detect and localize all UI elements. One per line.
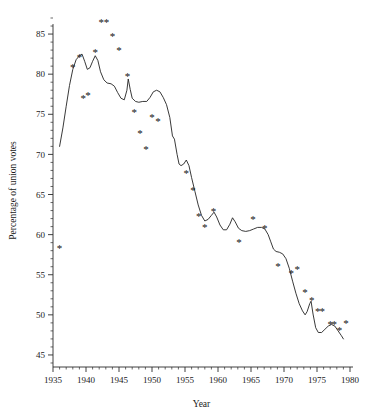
y-axis: 455055606570758085 bbox=[36, 18, 53, 367]
data-point-marker: * bbox=[104, 16, 110, 28]
data-point-marker: * bbox=[131, 106, 137, 118]
data-point-marker: * bbox=[302, 286, 308, 298]
x-tick-label: 1970 bbox=[275, 375, 294, 385]
data-point-marker: * bbox=[343, 317, 349, 329]
x-axis: 1935194019451950195519601965197019751980 bbox=[44, 367, 360, 385]
x-tick-label: 1935 bbox=[44, 375, 63, 385]
y-tick-label: 45 bbox=[36, 350, 46, 360]
data-point-marker: * bbox=[294, 263, 300, 275]
x-tick-label: 1950 bbox=[143, 375, 162, 385]
data-point-marker: * bbox=[110, 30, 116, 42]
x-tick-label: 1980 bbox=[341, 375, 360, 385]
x-tick-label: 1975 bbox=[308, 375, 327, 385]
y-tick-label: 70 bbox=[36, 150, 46, 160]
y-tick-label: 50 bbox=[36, 310, 46, 320]
data-point-marker: * bbox=[184, 167, 190, 179]
data-point-marker: * bbox=[116, 44, 122, 56]
y-tick-label: 60 bbox=[36, 230, 46, 240]
x-tick-label: 1955 bbox=[176, 375, 195, 385]
data-point-marker: * bbox=[57, 242, 63, 254]
data-point-marker: * bbox=[275, 260, 281, 272]
y-tick-label: 65 bbox=[36, 190, 46, 200]
y-tick-label: 85 bbox=[36, 29, 46, 39]
data-point-marker: * bbox=[85, 89, 91, 101]
x-tick-label: 1945 bbox=[110, 375, 129, 385]
data-point-marker: * bbox=[143, 143, 149, 155]
data-point-marker: * bbox=[236, 236, 242, 248]
data-point-marker: * bbox=[320, 305, 326, 317]
data-point-marker: * bbox=[202, 221, 208, 233]
x-tick-label: 1960 bbox=[209, 375, 228, 385]
data-series: *********************************** bbox=[57, 16, 349, 339]
data-point-marker: * bbox=[137, 127, 143, 139]
trend-line bbox=[60, 54, 344, 339]
data-point-marker: * bbox=[250, 213, 256, 225]
data-point-marker: * bbox=[77, 51, 83, 63]
y-axis-title: Percentage of union votes bbox=[8, 141, 18, 240]
x-tick-label: 1940 bbox=[77, 375, 96, 385]
data-point-marker: * bbox=[149, 111, 155, 123]
y-tick-label: 55 bbox=[36, 270, 46, 280]
y-tick-label: 75 bbox=[36, 109, 46, 119]
union-votes-chart: 455055606570758085 193519401945195019551… bbox=[0, 0, 385, 420]
y-tick-label: 80 bbox=[36, 69, 46, 79]
chart-svg: 455055606570758085 193519401945195019551… bbox=[0, 0, 385, 420]
x-tick-label: 1965 bbox=[242, 375, 261, 385]
x-axis-title: Year bbox=[193, 399, 211, 409]
data-point-marker: * bbox=[155, 115, 161, 127]
data-point-marker: * bbox=[125, 70, 131, 82]
